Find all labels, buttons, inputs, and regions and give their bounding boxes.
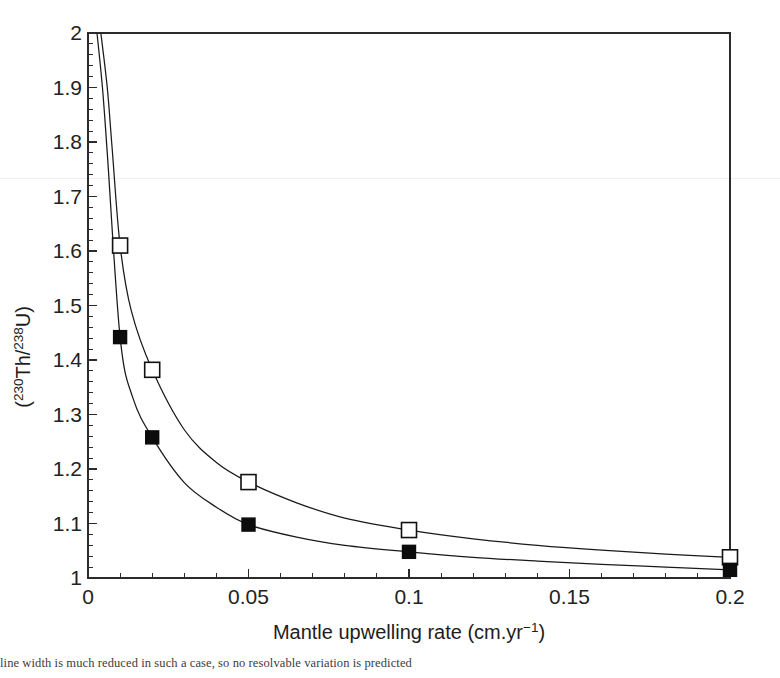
data-marker-open-square — [241, 475, 256, 490]
y-tick-label: 1 — [70, 566, 82, 589]
data-series — [97, 33, 738, 576]
data-marker-open-square — [402, 523, 417, 538]
series-curve — [101, 33, 730, 557]
x-tick-label: 0.1 — [394, 585, 423, 608]
figure-container: 11.11.21.31.41.51.61.71.81.9200.050.10.1… — [0, 0, 780, 678]
data-marker-filled-square — [403, 545, 416, 558]
series-curve — [97, 33, 730, 570]
y-tick-label: 1.1 — [53, 512, 82, 535]
y-tick-label: 1.5 — [53, 294, 82, 317]
y-tick-label: 1.4 — [53, 348, 83, 371]
x-tick-label: 0.15 — [549, 585, 590, 608]
axis-tick-labels: 11.11.21.31.41.51.61.71.81.9200.050.10.1… — [53, 21, 745, 608]
data-marker-open-square — [113, 238, 128, 253]
y-tick-label: 1.2 — [53, 457, 82, 480]
y-tick-label: 2 — [70, 21, 82, 44]
data-marker-filled-square — [724, 563, 737, 576]
y-axis-title: (230Th/238U) — [11, 306, 34, 408]
data-marker-filled-square — [114, 331, 127, 344]
data-marker-open-square — [723, 550, 738, 565]
axis-ticks — [88, 33, 730, 578]
data-marker-filled-square — [146, 431, 159, 444]
y-tick-label: 1.3 — [53, 403, 82, 426]
y-tick-label: 1.9 — [53, 76, 82, 99]
data-marker-filled-square — [242, 518, 255, 531]
y-tick-label: 1.7 — [53, 185, 82, 208]
plot-frame — [88, 33, 730, 578]
y-tick-label: 1.8 — [53, 130, 82, 153]
data-marker-open-square — [145, 362, 160, 377]
x-tick-label: 0.05 — [228, 585, 269, 608]
x-tick-label: 0 — [82, 585, 94, 608]
figure-caption-fragment: line width is much reduced in such a cas… — [0, 656, 780, 678]
x-tick-label: 0.2 — [715, 585, 744, 608]
x-axis-title: Mantle upwelling rate (cm.yr−1) — [273, 620, 545, 643]
chart-plot-area: 11.11.21.31.41.51.61.71.81.9200.050.10.1… — [0, 0, 780, 678]
svg-text:(230Th/238U): (230Th/238U) — [11, 306, 34, 408]
y-tick-label: 1.6 — [53, 239, 82, 262]
